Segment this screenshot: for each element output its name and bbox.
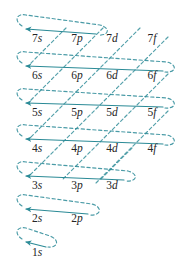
orbital-label-6s: 6s	[32, 69, 42, 81]
orbital-label-5p: 5p	[71, 106, 83, 118]
orbital-label-5f: 5f	[148, 106, 157, 118]
orbital-label-5s: 5s	[32, 106, 42, 118]
orbital-label-6p: 6p	[71, 69, 83, 81]
orbital-label-2s: 2s	[32, 212, 42, 224]
orbital-label-1s: 1s	[32, 246, 42, 258]
orbital-label-2p: 2p	[71, 212, 83, 224]
orbital-label-3p: 3p	[71, 179, 83, 191]
orbital-label-6d: 6d	[106, 69, 118, 81]
diagonal-2s-2p	[17, 195, 99, 215]
orbital-label-4s: 4s	[32, 142, 42, 154]
arrow-layer	[0, 0, 186, 278]
orbital-label-7s: 7s	[32, 32, 42, 44]
orbital-label-7d: 7d	[106, 32, 118, 44]
orbital-label-4d: 4d	[106, 142, 118, 154]
orbital-label-3d: 3d	[106, 179, 118, 191]
aufbau-diagram: 7s7p7d7f6s6p6d6f5s5p5d5f4s4p4d4f3s3p3d2s…	[0, 0, 186, 278]
orbital-label-6f: 6f	[148, 69, 157, 81]
orbital-label-7f: 7f	[148, 32, 157, 44]
orbital-label-4f: 4f	[148, 142, 157, 154]
orbital-label-5d: 5d	[106, 106, 118, 118]
orbital-label-7p: 7p	[71, 32, 83, 44]
orbital-label-3s: 3s	[32, 179, 42, 191]
orbital-label-4p: 4p	[71, 142, 83, 154]
diagonal-1s	[17, 228, 57, 247]
